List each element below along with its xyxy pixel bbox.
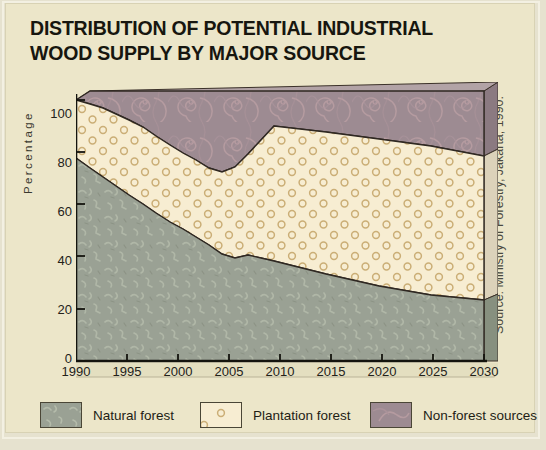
legend-item-non-forest-sources: Non-forest sources bbox=[370, 402, 537, 428]
plot-area bbox=[76, 82, 498, 382]
legend-item-natural-forest: Natural forest bbox=[40, 402, 174, 428]
legend-label-plantation-forest: Plantation forest bbox=[253, 408, 351, 423]
y-tick-60: 60 bbox=[32, 204, 72, 219]
legend-swatch-plantation-forest bbox=[200, 402, 242, 428]
x-tick-1995: 1995 bbox=[113, 364, 142, 379]
y-tick-40: 40 bbox=[32, 253, 72, 268]
y-tick-20: 20 bbox=[32, 302, 72, 317]
x-tick-2030: 2030 bbox=[470, 364, 499, 379]
legend-swatch-non-forest-sources bbox=[370, 402, 412, 428]
screenshot-root: DISTRIBUTION OF POTENTIAL INDUSTRIAL WOO… bbox=[0, 0, 546, 450]
title-line-2: WOOD SUPPLY BY MAJOR SOURCE bbox=[30, 41, 460, 66]
x-tick-2000: 2000 bbox=[164, 364, 193, 379]
x-tick-2015: 2015 bbox=[317, 364, 346, 379]
x-tick-2005: 2005 bbox=[215, 364, 244, 379]
legend-label-non-forest-sources: Non-forest sources bbox=[423, 408, 537, 423]
y-axis-ticks: 0 20 40 60 80 100 bbox=[28, 82, 76, 382]
x-tick-2020: 2020 bbox=[368, 364, 397, 379]
x-tick-1990: 1990 bbox=[62, 364, 91, 379]
legend-swatch-natural-forest bbox=[40, 402, 82, 428]
figure-card: DISTRIBUTION OF POTENTIAL INDUSTRIAL WOO… bbox=[6, 4, 534, 432]
title-line-1: DISTRIBUTION OF POTENTIAL INDUSTRIAL bbox=[30, 16, 460, 41]
y-tick-80: 80 bbox=[32, 155, 72, 170]
x-tick-2025: 2025 bbox=[419, 364, 448, 379]
chart-legend: Natural forest Plantation forest bbox=[30, 402, 510, 432]
x-tick-2010: 2010 bbox=[266, 364, 295, 379]
x-axis-ticks: 1990 1995 2000 2005 2010 2015 2020 2025 … bbox=[50, 364, 498, 394]
legend-item-plantation-forest: Plantation forest bbox=[200, 402, 351, 428]
y-tick-100: 100 bbox=[32, 106, 72, 121]
plot-svg bbox=[76, 82, 498, 382]
stacked-area-chart: Percentage 0 20 40 60 80 100 bbox=[28, 82, 498, 382]
legend-label-natural-forest: Natural forest bbox=[93, 408, 174, 423]
page-title: DISTRIBUTION OF POTENTIAL INDUSTRIAL WOO… bbox=[30, 16, 460, 66]
